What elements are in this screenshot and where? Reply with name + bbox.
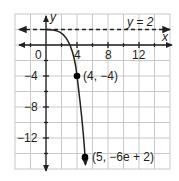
axes: [19, 16, 172, 171]
tick-x-8: 8: [105, 48, 112, 62]
asymptote-label: y = 2: [126, 15, 154, 29]
point-4-neg4: [74, 73, 81, 80]
point-5: [82, 154, 89, 161]
exponential-graph: y x y = 2 0 4 8 12 −4 −8 −12 (4, −4) (5,…: [0, 0, 179, 181]
tick-x-12: 12: [132, 48, 146, 62]
x-axis-label: x: [161, 30, 169, 44]
tick-x-0: 0: [35, 48, 42, 62]
tick-y-neg12: −12: [17, 131, 38, 145]
point2-label: (5, −6e + 2): [92, 150, 154, 164]
tick-y-neg8: −8: [24, 100, 38, 114]
tick-y-neg4: −4: [24, 69, 38, 83]
point1-label: (4, −4): [83, 69, 118, 83]
tick-x-4: 4: [74, 48, 81, 62]
grid: [15, 14, 170, 169]
y-axis-label: y: [49, 10, 57, 24]
